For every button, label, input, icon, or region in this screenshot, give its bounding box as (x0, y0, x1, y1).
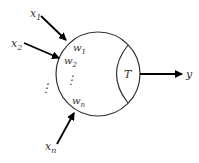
inputs-ellipsis: ⋮ (40, 81, 52, 95)
weight-label-2: w2 (64, 55, 78, 69)
input-label-2: x2 (11, 37, 22, 52)
input-label-1: x1 (30, 7, 41, 22)
transfer-label: T (124, 68, 133, 81)
output-label: y (185, 68, 193, 81)
input-arrow-1 (41, 16, 66, 40)
weights-ellipsis: ⋮ (65, 73, 77, 87)
weight-label-1: w1 (73, 42, 86, 56)
input-arrow-n (57, 113, 74, 144)
weight-label-n: wn (72, 95, 86, 109)
input-label-n: xn (45, 140, 56, 155)
input-arrow-2 (24, 43, 59, 58)
neuron-diagram: x1 x2 xn w1 w2 wn ⋮ ⋮ T y (0, 0, 199, 163)
